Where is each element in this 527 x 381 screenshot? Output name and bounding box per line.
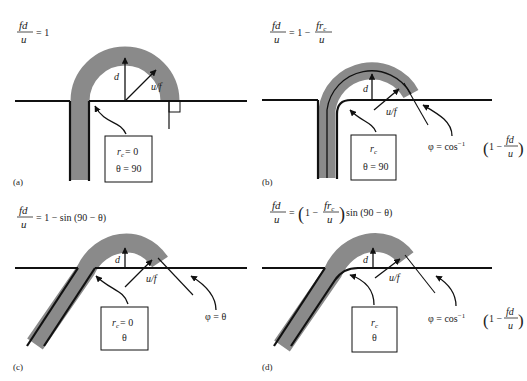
eq-b-den: u xyxy=(274,33,280,45)
box-a-line2: θ = 90 xyxy=(116,163,141,174)
panel-a: fd u = 1 d u/f rc= 0 θ = 90 (a) xyxy=(13,19,247,187)
d-label-b: d xyxy=(363,83,369,94)
eq-d-den: u xyxy=(274,213,280,225)
pointer-arrow-b xyxy=(350,110,376,132)
figure-canvas: fd u = 1 d u/f rc= 0 θ = 90 (a) fd xyxy=(0,0,527,381)
phi-c: φ = θ xyxy=(205,311,226,322)
equation-c: fd u = 1 − sin (90 − θ) xyxy=(17,204,106,230)
eq-d-num: fd xyxy=(272,199,281,211)
pointer-arrow-a xyxy=(95,106,126,134)
phi-d-num: fd xyxy=(506,306,515,317)
eq-c-den: u xyxy=(21,218,27,230)
tangent-line-c xyxy=(158,258,193,295)
phi-formula-b: φ = cos−1 ( 1 − fd u ) xyxy=(428,134,524,159)
phi-arrow-d xyxy=(436,276,456,306)
eq-d-rhs-post: sin (90 − θ) xyxy=(346,207,392,219)
phi-d-lhs: φ = cos−1 xyxy=(428,312,466,324)
param-box-a xyxy=(105,136,152,182)
uf-label-d: u/f xyxy=(389,272,401,283)
phi-arrow-c xyxy=(191,276,216,310)
eq-d-rhs-pre: = xyxy=(289,207,295,218)
eq-d-inner: 1 − xyxy=(305,207,319,218)
panel-label-b: (b) xyxy=(262,177,273,187)
panel-label-a: (a) xyxy=(13,177,23,187)
eq-c-num: fd xyxy=(19,204,28,216)
phi-b-den: u xyxy=(508,148,513,159)
phi-formula-d: φ = cos−1 ( 1 − fd u ) xyxy=(428,306,524,331)
paren-open-d-eq: ( xyxy=(298,204,304,225)
eq-a-num: fd xyxy=(19,19,28,31)
phi-arrow-b xyxy=(423,105,452,136)
equation-b: fd u = 1 − frc u xyxy=(270,19,332,45)
panel-c: fd u = 1 − sin (90 − θ) d u/f rc= 0 θ φ … xyxy=(13,204,247,372)
param-box-c xyxy=(101,307,148,350)
right-angle-marker-a xyxy=(169,101,180,112)
eq-b-rhs-num: frc xyxy=(316,19,327,33)
panel-label-c: (c) xyxy=(13,362,23,372)
equation-a: fd u = 1 xyxy=(17,19,49,45)
phi-b-num: fd xyxy=(506,134,515,145)
uf-label-b: u/f xyxy=(386,106,398,117)
box-c-line2: θ xyxy=(122,332,127,343)
pointer-arrow-c xyxy=(96,276,128,304)
eq-a-rhs: = 1 xyxy=(36,27,49,38)
paren-close-d-eq: ) xyxy=(339,204,345,225)
box-b-line2: θ = 90 xyxy=(363,161,388,172)
eq-a-den: u xyxy=(21,33,27,45)
panel-b: fd u = 1 − frc u d u/f rc θ = 90 xyxy=(262,19,524,187)
paren-close-b: ) xyxy=(518,139,524,158)
panel-d: fd u = ( 1 − frc u ) sin (90 − θ) d u/f xyxy=(262,199,524,372)
eq-d-rhs-num: frc xyxy=(324,199,335,213)
phi-b-lhs: φ = cos−1 xyxy=(428,140,466,152)
phi-d-inner: 1 − xyxy=(489,313,503,324)
eq-d-rhs-den: u xyxy=(327,213,333,225)
d-label-a: d xyxy=(114,71,120,82)
eq-c-rhs: = 1 − sin (90 − θ) xyxy=(36,212,106,224)
phi-d-den: u xyxy=(508,320,513,331)
phi-b-inner: 1 − xyxy=(489,141,503,152)
eq-b-rhs-den: u xyxy=(319,33,325,45)
eq-b-rhs-pre: = 1 − xyxy=(289,27,311,38)
param-box-b xyxy=(351,135,396,180)
box-d-line2: θ xyxy=(372,332,377,343)
d-label-c: d xyxy=(115,254,121,265)
eq-b-num: fd xyxy=(272,19,281,31)
pointer-arrow-d xyxy=(350,275,374,305)
paren-close-d: ) xyxy=(518,311,524,330)
d-label-d: d xyxy=(363,254,369,265)
panel-label-d: (d) xyxy=(262,362,273,372)
tangent-line-d xyxy=(405,255,435,293)
uf-label-a: u/f xyxy=(151,81,163,92)
equation-d: fd u = ( 1 − frc u ) sin (90 − θ) xyxy=(270,199,392,225)
uf-label-c: u/f xyxy=(146,273,158,284)
